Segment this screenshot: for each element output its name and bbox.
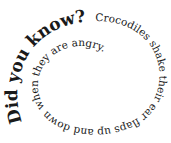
spiral-text-graphic: Did you know? Crocodiles shake their ear…	[0, 0, 171, 143]
spiral-text: Did you know? Crocodiles shake their ear…	[1, 6, 169, 140]
spiral-svg: Did you know? Crocodiles shake their ear…	[0, 0, 171, 143]
